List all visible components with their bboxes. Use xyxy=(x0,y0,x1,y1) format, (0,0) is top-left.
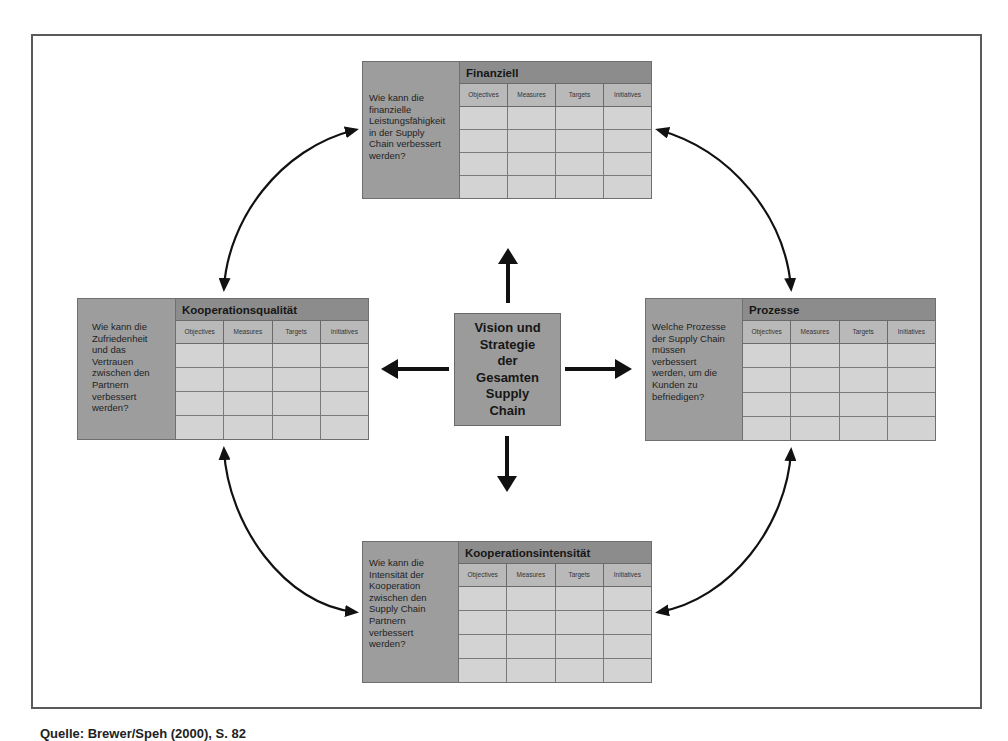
source-caption: Quelle: Brewer/Speh (2000), S. 82 xyxy=(40,726,246,741)
curved-arrow-qualitaet-intensitaet xyxy=(224,450,355,612)
arrow-up-icon xyxy=(498,248,518,303)
curved-arrow-prozesse-intensitaet xyxy=(659,451,791,612)
arrow-left-icon xyxy=(381,359,449,379)
curved-arrow-finanziell-qualitaet xyxy=(224,130,355,288)
curved-arrow-finanziell-prozesse xyxy=(659,130,791,288)
arrow-down-icon xyxy=(497,436,517,492)
arrow-right-icon xyxy=(565,359,632,379)
